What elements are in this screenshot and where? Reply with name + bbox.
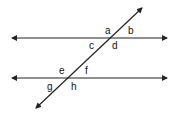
angle-label-e: e	[59, 65, 65, 76]
transversal-diagram: abcdefgh	[0, 0, 178, 118]
angle-label-c: c	[89, 40, 94, 51]
angle-label-d: d	[112, 40, 118, 51]
angle-label-a: a	[105, 25, 111, 36]
angle-label-b: b	[128, 25, 134, 36]
angle-label-h: h	[71, 81, 77, 92]
transversal	[36, 8, 142, 108]
angle-label-f: f	[85, 65, 88, 76]
angle-label-g: g	[47, 81, 53, 92]
